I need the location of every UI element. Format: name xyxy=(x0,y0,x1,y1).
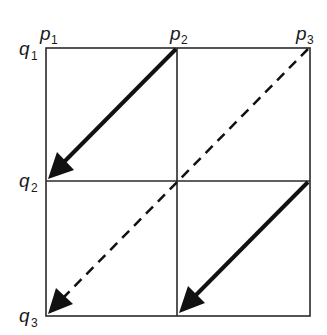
svg-text:3: 3 xyxy=(31,316,38,330)
svg-text:1: 1 xyxy=(51,33,58,47)
svg-text:3: 3 xyxy=(307,33,314,47)
label-p1: p 1 xyxy=(39,23,58,47)
svg-text:p: p xyxy=(169,23,181,44)
svg-text:p: p xyxy=(295,23,307,44)
label-p3: p 3 xyxy=(295,23,314,47)
label-q3: q 3 xyxy=(19,305,38,330)
grid-diagram: p 1 p 2 p 3 q 1 q 2 q 3 xyxy=(0,0,327,335)
label-p2: p 2 xyxy=(169,23,188,47)
svg-text:1: 1 xyxy=(31,49,38,63)
svg-text:q: q xyxy=(19,305,30,326)
svg-text:p: p xyxy=(39,23,51,44)
label-q2: q 2 xyxy=(19,170,38,195)
svg-text:2: 2 xyxy=(181,33,188,47)
arrow-p2q1-to-p1q2 xyxy=(48,49,176,179)
label-q1: q 1 xyxy=(19,38,38,63)
svg-text:2: 2 xyxy=(31,181,38,195)
svg-text:q: q xyxy=(19,170,30,191)
svg-text:q: q xyxy=(19,38,30,59)
arrow-p3q2-to-p2q3 xyxy=(179,182,308,313)
